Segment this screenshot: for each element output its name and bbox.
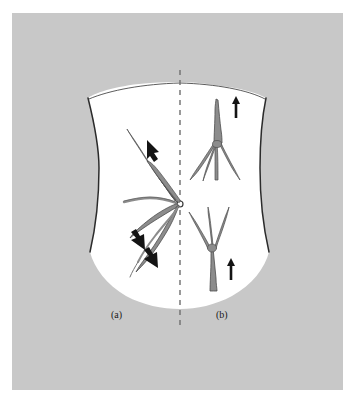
figure-illustration: [0, 0, 359, 411]
torso-silhouette: [88, 82, 269, 309]
panel-b-caption: (b): [216, 309, 228, 320]
figure-root: (a) (b): [0, 0, 359, 411]
vein-b-lower-junction: [208, 244, 217, 252]
vein-b-upper-junction: [213, 141, 222, 148]
panel-a-caption: (a): [111, 309, 122, 320]
vein-b-upper-center-limb: [215, 143, 218, 180]
torso-body-fill: [88, 82, 269, 309]
